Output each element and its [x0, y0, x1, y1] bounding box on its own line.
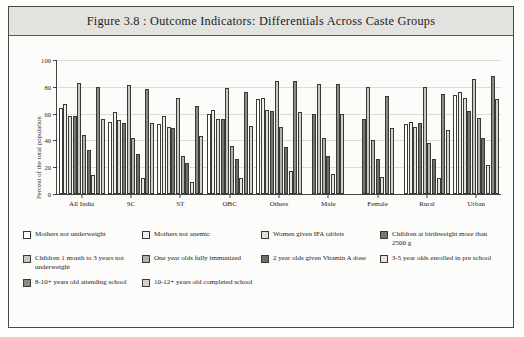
- bar: [427, 143, 431, 194]
- bar-group: Female: [353, 60, 402, 194]
- bar: [59, 108, 63, 194]
- legend-item[interactable]: 10-12+ years old completed school: [142, 278, 261, 287]
- bar: [63, 104, 67, 194]
- legend-label: One year olds fully immunized: [154, 254, 241, 263]
- x-axis-tick: [229, 194, 230, 198]
- y-axis-tick-label: 60: [44, 110, 51, 117]
- bar: [157, 124, 161, 194]
- bar: [73, 116, 77, 194]
- bar: [380, 177, 384, 194]
- figure-title-banner: Figure 3.8 : Outcome Indicators: Differe…: [9, 7, 513, 36]
- bar: [244, 92, 248, 194]
- bar: [331, 174, 335, 194]
- bar: [409, 122, 413, 194]
- bar-group: All India: [57, 60, 106, 194]
- bar: [366, 87, 370, 194]
- bar: [418, 123, 422, 194]
- legend-item[interactable]: Mothers not anemic: [142, 230, 261, 247]
- bar: [199, 136, 203, 194]
- bar: [108, 122, 112, 194]
- bar: [312, 114, 316, 194]
- legend-label: Women given IFA tablets: [273, 230, 344, 239]
- bar: [371, 140, 375, 194]
- bar: [122, 123, 126, 194]
- bar: [423, 87, 427, 194]
- bar: [207, 114, 211, 194]
- bar: [117, 120, 121, 194]
- y-axis-tick-label: 40: [44, 137, 51, 144]
- y-axis-title: Percent of the total population: [31, 97, 45, 217]
- legend-swatch-icon: [142, 279, 150, 287]
- legend-row: Mothers not underweightMothers not anemi…: [23, 230, 499, 247]
- bar: [298, 112, 302, 194]
- bar: [181, 156, 185, 194]
- legend-item[interactable]: Women given IFA tablets: [261, 230, 380, 247]
- bar: [376, 159, 380, 194]
- bar: [453, 95, 457, 194]
- bar: [82, 135, 86, 194]
- legend-item[interactable]: One year olds fully immunized: [142, 254, 261, 271]
- y-axis-tick-label: 80: [44, 83, 51, 90]
- bar: [101, 119, 105, 194]
- bar: [340, 114, 344, 194]
- bar: [432, 159, 436, 194]
- bar-group: Male: [304, 60, 353, 194]
- x-axis-tick: [328, 194, 329, 198]
- bar: [284, 147, 288, 194]
- bar: [221, 119, 225, 194]
- bar: [190, 182, 194, 194]
- legend-item[interactable]: 8-10+ years old attending school: [23, 278, 142, 287]
- bar: [289, 171, 293, 194]
- bar: [362, 119, 366, 194]
- bar: [113, 112, 117, 194]
- x-axis-tick: [180, 194, 181, 198]
- x-axis-tick-label: Others: [270, 200, 289, 208]
- legend-label: Children at birthweight more than 2500 g: [392, 230, 495, 247]
- y-axis-title-text: Percent of the total population: [35, 116, 42, 199]
- x-axis-tick: [81, 194, 82, 198]
- x-axis-tick: [377, 194, 378, 198]
- bar: [472, 79, 476, 194]
- legend-swatch-icon: [23, 231, 31, 239]
- y-axis-tick-label: 20: [44, 164, 51, 171]
- bar: [225, 88, 229, 194]
- bar: [317, 84, 321, 194]
- bar: [413, 127, 417, 194]
- x-axis-tick-label: Male: [321, 200, 335, 208]
- bar: [265, 110, 269, 194]
- bar: [336, 84, 340, 194]
- x-axis-tick-label: Urban: [468, 200, 486, 208]
- bar: [249, 126, 253, 194]
- bar: [87, 150, 91, 194]
- bar: [437, 178, 441, 194]
- page-title: Figure 3.8 : Outcome Indicators: Differe…: [87, 14, 436, 29]
- bar: [256, 99, 260, 194]
- legend-swatch-icon: [380, 231, 388, 239]
- legend-swatch-icon: [142, 231, 150, 239]
- plot-area: 020406080100 All IndiaSCSTOBCOthersMaleF…: [56, 60, 501, 195]
- bar: [136, 154, 140, 194]
- bar-group: Others: [254, 60, 303, 194]
- legend-item[interactable]: Children 1 month to 3 years not underwei…: [23, 254, 142, 271]
- bar: [195, 106, 199, 194]
- bar: [91, 175, 95, 194]
- legend-label: 8-10+ years old attending school: [35, 278, 127, 287]
- bar: [261, 98, 265, 194]
- bar: [441, 94, 445, 195]
- bar: [463, 98, 467, 194]
- bar: [458, 92, 462, 194]
- legend-label: 2 year olds given Vitamin A dose: [273, 254, 366, 263]
- bar: [171, 128, 175, 194]
- legend-item[interactable]: 3-5 year olds enrolled in pre school: [380, 254, 499, 271]
- bar: [270, 111, 274, 194]
- legend-item[interactable]: Mothers not underweight: [23, 230, 142, 247]
- bar: [77, 83, 81, 194]
- x-axis-tick-label: ST: [176, 200, 184, 208]
- bar: [127, 85, 131, 194]
- legend-item[interactable]: 2 year olds given Vitamin A dose: [261, 254, 380, 271]
- bar: [481, 138, 485, 194]
- legend-item[interactable]: Children at birthweight more than 2500 g: [380, 230, 499, 247]
- bar-group: OBC: [205, 60, 254, 194]
- bar: [446, 130, 450, 194]
- legend-label: Mothers not anemic: [154, 230, 210, 239]
